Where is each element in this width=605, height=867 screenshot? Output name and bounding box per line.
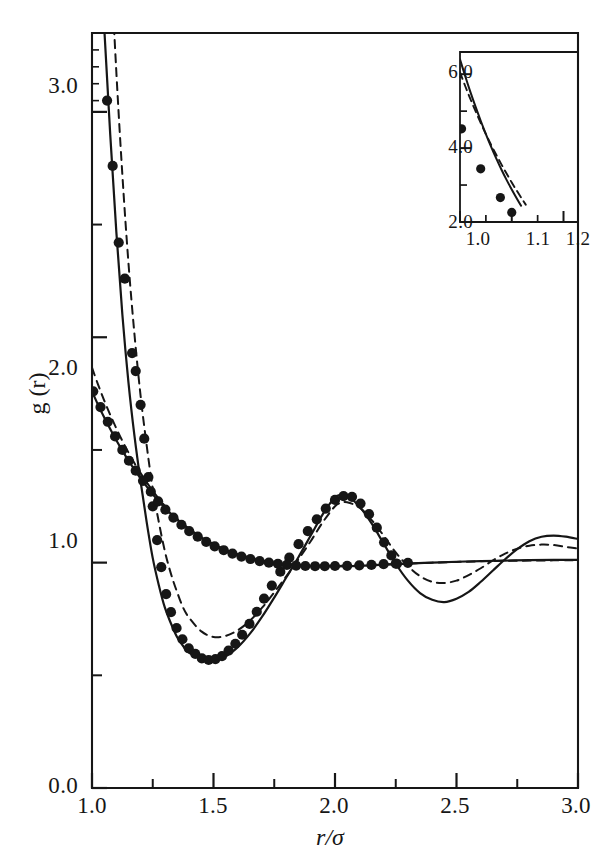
figure-root: 0.0 1.0 2.0 3.0 1.0 1.5 2.0 2.5 3.0 g (r… <box>0 0 605 867</box>
y-tick-label-1: 1.0 <box>16 528 78 554</box>
dense-fluid-simulation-points-point <box>312 514 322 524</box>
dense-fluid-simulation-points-point <box>131 366 141 376</box>
dense-fluid-simulation-points-point <box>372 523 382 533</box>
y-axis-title-text: g (r) <box>24 373 50 415</box>
dilute-fluid-simulation-points-point <box>391 558 401 568</box>
x-axis-title: r/σ <box>275 824 385 851</box>
dense-fluid-simulation-points-point <box>161 589 171 599</box>
dense-fluid-simulation-points-point <box>267 581 277 591</box>
dense-fluid-simulation-points-point <box>293 539 303 549</box>
y-axis-title: g (r) <box>24 349 51 439</box>
inset-simulation-points-point <box>457 124 466 133</box>
dilute-fluid-simulation-points-point <box>330 561 340 571</box>
dense-fluid-simulation-points-point <box>303 526 313 536</box>
dilute-fluid-simulation-points-point <box>255 556 265 566</box>
inset-simulation-points-point <box>476 164 485 173</box>
dilute-fluid-simulation-points-point <box>320 561 330 571</box>
dilute-fluid-simulation-points-point <box>273 559 283 569</box>
inset-x-tick-label-2: 1.2 <box>552 228 604 250</box>
dense-fluid-simulation-points-point <box>166 607 176 617</box>
dilute-fluid-simulation-points-point <box>184 526 194 536</box>
x-tick-label-2: 2.0 <box>299 793 369 819</box>
dilute-fluid-simulation-points-point <box>146 487 156 497</box>
dense-fluid-dashed-curve <box>92 0 578 637</box>
dense-fluid-simulation-points-point <box>355 498 365 508</box>
dense-fluid-simulation-points-point <box>156 562 166 572</box>
dilute-fluid-simulation-points-point <box>193 532 203 542</box>
inset-simulation-points-point <box>507 208 516 217</box>
dense-fluid-simulation-points-point <box>177 634 187 644</box>
inset-axis-frame <box>460 52 578 222</box>
dilute-fluid-simulation-points-point <box>138 476 148 486</box>
dense-fluid-simulation-points-point <box>108 161 118 171</box>
dilute-fluid-simulation-points-point <box>236 551 246 561</box>
inset-x-tick-label-0: 1.0 <box>452 228 504 250</box>
dense-fluid-simulation-points-point <box>321 503 331 513</box>
dilute-fluid-simulation-points-point <box>342 561 352 571</box>
dense-fluid-simulation-points-point <box>97 12 107 22</box>
dilute-fluid-simulation-points-point <box>131 466 141 476</box>
dilute-fluid-simulation-points-point <box>168 512 178 522</box>
dilute-fluid-simulation-points-point <box>310 561 320 571</box>
dilute-fluid-solid-curve <box>92 391 578 566</box>
axis-frame <box>92 33 578 788</box>
inset-chart <box>457 52 578 222</box>
dense-fluid-simulation-points-point <box>379 537 389 547</box>
x-tick-label-3: 2.5 <box>420 793 490 819</box>
dilute-fluid-simulation-points-point <box>354 560 364 570</box>
dilute-fluid-simulation-points-point <box>219 545 229 555</box>
dilute-fluid-simulation-points-point <box>117 445 127 455</box>
dilute-fluid-simulation-points-point <box>110 431 120 441</box>
dense-fluid-simulation-points-point <box>136 400 146 410</box>
dilute-fluid-simulation-points-point <box>95 402 105 412</box>
dilute-fluid-simulation-points-point <box>124 456 134 466</box>
dilute-fluid-simulation-points-point <box>153 496 163 506</box>
dilute-fluid-simulation-points-point <box>210 541 220 551</box>
dilute-fluid-simulation-points-point <box>245 554 255 564</box>
dense-fluid-simulation-points-point <box>244 619 254 629</box>
y-tick-label-3: 3.0 <box>16 73 78 99</box>
data-markers <box>88 0 413 665</box>
dilute-fluid-simulation-points-point <box>403 558 413 568</box>
dense-fluid-simulation-points-point <box>127 348 137 358</box>
axis-ticks <box>92 50 578 788</box>
dense-fluid-simulation-points-point <box>237 630 247 640</box>
dense-fluid-simulation-points-point <box>230 639 240 649</box>
dense-fluid-simulation-points-point <box>152 535 162 545</box>
dense-fluid-simulation-points-point <box>364 509 374 519</box>
x-axis-title-text: r/σ <box>316 824 344 850</box>
dilute-fluid-simulation-points-point <box>291 560 301 570</box>
x-tick-label-1: 1.5 <box>178 793 248 819</box>
dilute-fluid-simulation-points-point <box>366 560 376 570</box>
dilute-fluid-simulation-points-point <box>88 386 98 396</box>
dilute-fluid-simulation-points-point <box>264 558 274 568</box>
dilute-fluid-simulation-points-point <box>300 561 310 571</box>
dense-fluid-simulation-points-point <box>120 274 130 284</box>
dense-fluid-simulation-points-point <box>171 623 181 633</box>
x-tick-label-4: 3.0 <box>541 793 605 819</box>
inset-simulation-points-point <box>496 193 505 202</box>
dense-fluid-simulation-points-point <box>114 238 124 248</box>
dilute-fluid-simulation-points-point <box>282 560 292 570</box>
main-chart <box>0 0 605 867</box>
dense-fluid-simulation-points-point <box>139 434 149 444</box>
dense-fluid-simulation-points-point <box>102 96 112 106</box>
dense-fluid-simulation-points-point <box>259 594 269 604</box>
dilute-fluid-simulation-points-point <box>379 559 389 569</box>
inset-y-tick-label-1: 4.0 <box>417 136 473 158</box>
dilute-fluid-simulation-points-point <box>227 549 237 559</box>
data-curves <box>92 0 578 660</box>
dense-fluid-simulation-points-point <box>252 607 262 617</box>
dilute-fluid-dashed-curve <box>92 368 578 566</box>
dilute-fluid-simulation-points-point <box>160 505 170 515</box>
dilute-fluid-simulation-points-point <box>103 417 113 427</box>
inset-axis-ticks <box>460 74 564 222</box>
x-tick-label-0: 1.0 <box>57 793 127 819</box>
inset-y-tick-label-2: 6.0 <box>417 61 473 83</box>
dense-fluid-simulation-points-point <box>347 492 357 502</box>
